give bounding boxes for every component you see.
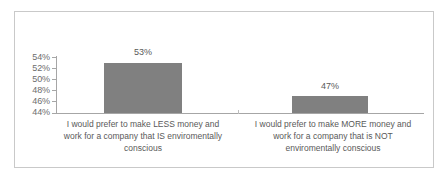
category-label-more-money-line1: I would prefer to make MORE money and [238,118,428,130]
bar-value-label-more-money: 47% [292,81,368,91]
category-label-more-money-line2: work for a company that is NOT [238,130,428,142]
x-axis-line [57,113,424,114]
y-axis-line [56,56,57,114]
category-label-more-money: I would prefer to make MORE money and wo… [238,118,428,154]
y-tick-label-46: 46% [4,97,50,106]
y-axis: 54% 52% 50% 48% 46% 44% [0,0,50,181]
bar-value-label-less-money: 53% [104,47,182,57]
category-separator-tick [238,110,239,114]
bar-chart: 54% 52% 50% 48% 46% 44% 53% 47% I would … [0,0,447,181]
category-label-less-money: I would prefer to make LESS money and wo… [48,118,238,154]
y-tick-label-50: 50% [4,75,50,84]
y-tick-label-48: 48% [4,86,50,95]
bar-less-money[interactable] [104,63,182,113]
y-tick-label-52: 52% [4,64,50,73]
y-tick-label-54: 54% [4,53,50,62]
category-label-more-money-line3: enviromentally conscious [238,142,428,154]
category-label-less-money-line3: conscious [48,142,238,154]
bar-more-money[interactable] [292,96,368,113]
category-label-less-money-line2: work for a company that IS enviromentall… [48,130,238,142]
y-tick-label-44: 44% [4,108,50,117]
category-label-less-money-line1: I would prefer to make LESS money and [48,118,238,130]
